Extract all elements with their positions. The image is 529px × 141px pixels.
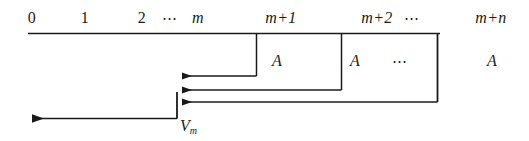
period-label-ellipsis-right: ⋯ xyxy=(404,11,420,26)
period-label-m-plus-1: m+1 xyxy=(265,10,296,26)
period-label-m-plus-2: m+2 xyxy=(361,10,392,26)
cash-flow-label-1: A xyxy=(272,53,282,69)
cash-flow-label-3: A xyxy=(487,53,497,69)
present-value-symbol: V xyxy=(180,117,190,134)
cash-flow-label-2: A xyxy=(350,53,360,69)
period-label-1: 1 xyxy=(81,10,89,26)
period-label-0: 0 xyxy=(28,10,36,26)
period-label-m: m xyxy=(192,10,204,26)
present-value-label: Vm xyxy=(180,118,197,134)
present-value-subscript: m xyxy=(190,125,197,136)
cash-flow-label-ellipsis: ⋯ xyxy=(392,54,408,69)
period-label-2: 2 xyxy=(138,10,146,26)
cash-flow-diagram: 0 1 2 ⋯ m m+1 m+2 ⋯ m+n A A ⋯ A Vm xyxy=(0,0,529,141)
period-label-ellipsis-left: ⋯ xyxy=(162,11,178,26)
period-label-m-plus-n: m+n xyxy=(475,10,506,26)
